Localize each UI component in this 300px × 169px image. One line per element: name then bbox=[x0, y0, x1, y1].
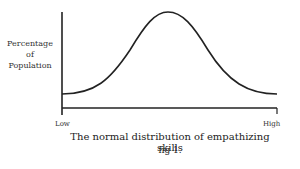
y-axis-label-line: of bbox=[4, 49, 56, 60]
x-tick-high: High bbox=[263, 120, 280, 128]
y-axis-label: Percentage of Population bbox=[4, 38, 56, 71]
y-axis-label-line: Percentage bbox=[4, 38, 56, 49]
x-tick-low: Low bbox=[55, 120, 70, 128]
figure-caption: fig 1. bbox=[60, 145, 280, 155]
bell-curve bbox=[62, 12, 277, 94]
y-axis-label-line: Population bbox=[4, 60, 56, 71]
